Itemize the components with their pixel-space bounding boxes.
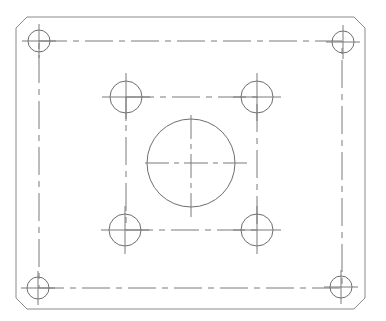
technical-drawing [0,0,386,321]
inner-hole-top-left [102,73,150,121]
inner-hole-top-right [233,73,281,121]
outer-hole-top-left [22,24,56,58]
inner-hole-bottom-left [101,206,149,254]
center-bore [145,115,247,219]
inner-hole-bottom-right [233,206,281,254]
outer-hole-bottom-left [21,271,55,305]
outer-hole-bottom-right [324,270,358,304]
outer-hole-top-right [326,25,360,59]
